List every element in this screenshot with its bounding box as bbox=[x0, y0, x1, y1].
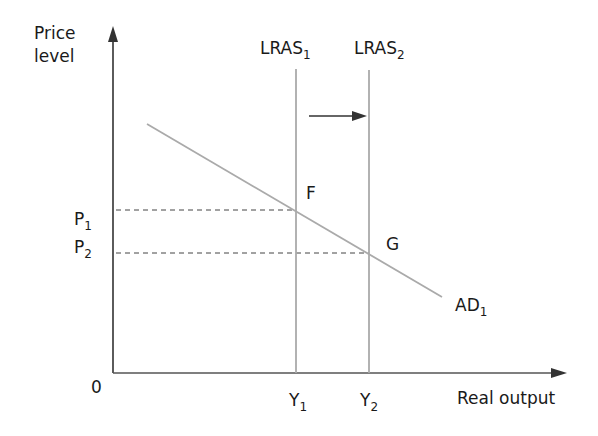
y-axis-label: Price level bbox=[34, 25, 75, 65]
lras1-label: LRAS1 bbox=[260, 40, 311, 61]
point-g-label: G bbox=[386, 236, 399, 253]
p1-label: P1 bbox=[74, 211, 92, 232]
y1-label: Y1 bbox=[289, 392, 307, 413]
shift-arrow-head-icon bbox=[352, 111, 367, 121]
origin-label: 0 bbox=[91, 379, 102, 396]
lras2-label: LRAS2 bbox=[354, 40, 405, 61]
x-axis-arrow-icon bbox=[551, 368, 567, 378]
y2-label: Y2 bbox=[360, 392, 378, 413]
y-axis-arrow-icon bbox=[108, 26, 118, 42]
point-f-label: F bbox=[306, 185, 316, 202]
p2-label: P2 bbox=[74, 239, 92, 260]
ad1-label: AD1 bbox=[455, 297, 487, 318]
x-axis-label: Real output bbox=[457, 390, 555, 407]
